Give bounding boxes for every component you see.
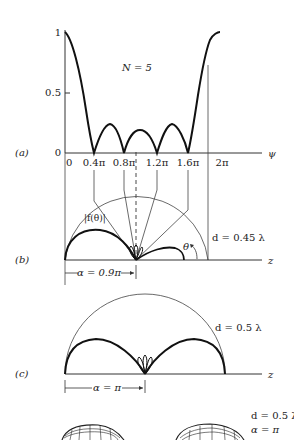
psi-axis-label: ψ: [268, 148, 276, 159]
back-lobe: [136, 248, 184, 261]
panel-a: 1 0.5 0 N = 5 (a) 0 0.4π 0.8π 1.2π 1.6π …: [15, 27, 276, 168]
panel-c: d = 0.5 λ (c) z α = π: [15, 294, 274, 393]
array-factor-curve: [65, 32, 220, 153]
y-tick-label-1: 1: [55, 27, 61, 38]
spacing-label-c: d = 0.5 λ: [215, 322, 262, 333]
y-tick-label-0: 0: [55, 147, 61, 158]
side-lobes-c: [138, 355, 152, 374]
left-lobe-c: [65, 339, 145, 374]
x-tick-label-1.6pi: 1.6π: [177, 157, 200, 168]
alpha-arrowhead-b: [130, 271, 134, 275]
alpha-label-c: α = π: [93, 382, 121, 393]
projection-lines: [65, 65, 208, 285]
right-lobe-mesh: [176, 424, 244, 440]
x-tick-label-0.8pi: 0.8π: [113, 157, 136, 168]
x-tick-label-1.2pi: 1.2π: [146, 157, 169, 168]
right-lobe-c: [145, 339, 225, 374]
panel-b-label: (b): [15, 254, 29, 265]
panel-a-label: (a): [15, 147, 29, 158]
alpha-label-b: α = 0.9π: [77, 267, 121, 278]
antenna-array-diagram: 1 0.5 0 N = 5 (a) 0 0.4π 0.8π 1.2π 1.6π …: [0, 0, 294, 440]
pattern-label: |f(θ)|: [84, 213, 106, 224]
alpha-arrowhead-c: [139, 386, 143, 390]
z-axis-label-c: z: [267, 369, 274, 380]
x-tick-label-0.4pi: 0.4π: [83, 157, 106, 168]
visible-region-circle-c: [65, 294, 225, 374]
y-tick-label-0.5: 0.5: [45, 87, 61, 98]
main-lobe: [65, 230, 136, 260]
spacing-label-b: d = 0.45 λ: [212, 232, 266, 243]
x-tick-label-2pi: 2π: [216, 157, 229, 168]
left-lobe-mesh: [62, 425, 124, 440]
alpha-label-d: α = π: [251, 424, 279, 435]
z-axis-label-b: z: [267, 255, 274, 266]
panel-c-label: (c): [15, 368, 29, 379]
panel-b: |f(θ)| d = 0.45 λ θ (b) z α = 0.9π: [15, 196, 274, 279]
x-tick-label-0: 0: [66, 157, 72, 168]
panel-d-3d-pattern: d = 0.5 λ α = π: [62, 410, 294, 440]
spacing-label-d: d = 0.5 λ: [251, 410, 294, 421]
n-equals-5-annotation: N = 5: [121, 62, 152, 73]
theta-label: θ: [183, 241, 189, 252]
